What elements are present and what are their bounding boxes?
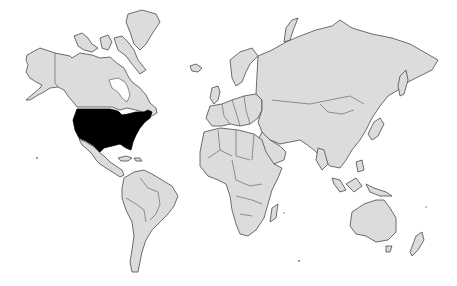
world-map: [0, 0, 457, 286]
region-south-america[interactable]: [122, 170, 178, 272]
region-europe[interactable]: [206, 48, 262, 126]
region-oceania[interactable]: [350, 200, 424, 256]
region-asia[interactable]: [256, 18, 438, 170]
region-iceland[interactable]: [190, 64, 202, 72]
region-greenland[interactable]: [126, 10, 160, 50]
